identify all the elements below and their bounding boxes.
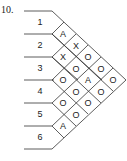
- grid-cell: O: [82, 51, 94, 63]
- row-label-2: 2: [30, 40, 50, 50]
- grid-cell: A: [82, 74, 94, 86]
- row-label-6: 6: [30, 132, 50, 142]
- row-label-3: 3: [30, 63, 50, 73]
- row-label-1: 1: [30, 17, 50, 27]
- grid-cell: O: [70, 109, 82, 121]
- grid-cell: O: [95, 86, 107, 98]
- grid-cell: O: [107, 74, 119, 86]
- row-label-5: 5: [30, 109, 50, 119]
- row-label-4: 4: [30, 86, 50, 96]
- grid-cell: X: [57, 51, 69, 63]
- grid-cell: X: [70, 40, 82, 52]
- grid-cell: O: [70, 63, 82, 75]
- grid-cell: O: [57, 74, 69, 86]
- grid-cell: O: [95, 63, 107, 75]
- grid-cell: O: [82, 97, 94, 109]
- grid-cell: O: [70, 86, 82, 98]
- grid-cell: A: [57, 120, 69, 132]
- grid-cell: A: [57, 28, 69, 40]
- grid-cell: O: [57, 97, 69, 109]
